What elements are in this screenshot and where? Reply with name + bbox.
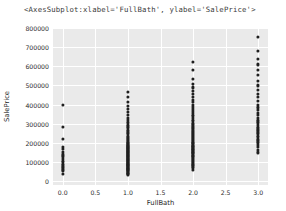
notebook-output-cell: <AxesSubplot:xlabel='FullBath', ylabel='… (0, 0, 286, 211)
scatter-point (257, 96, 260, 99)
scatter-point (191, 77, 194, 80)
axessubplot-repr-text: <AxesSubplot:xlabel='FullBath', ylabel='… (24, 5, 256, 14)
scatter-point (257, 92, 260, 95)
scatter-point (126, 107, 129, 110)
scatter-point (257, 49, 260, 52)
scatter-plot-axes (53, 28, 268, 185)
x-tick-label: 0.5 (90, 189, 100, 196)
x-axis-label: FullBath (53, 199, 268, 207)
scatter-point (126, 101, 129, 104)
scatter-point (191, 89, 194, 92)
x-tick-label: 1.5 (156, 189, 166, 196)
matplotlib-figure: 0100000200000300000400000500000600000700… (0, 18, 286, 211)
scatter-point (257, 100, 260, 103)
gridline-vertical (226, 28, 227, 185)
scatter-point (257, 84, 260, 87)
x-axis-tick-labels: 0.00.51.01.52.02.53.0 (53, 189, 268, 199)
scatter-point (126, 91, 129, 94)
x-tick-label: 1.0 (123, 189, 133, 196)
scatter-point (191, 60, 194, 63)
gridline-vertical (161, 28, 162, 185)
scatter-point (257, 73, 260, 76)
scatter-point (126, 96, 129, 99)
scatter-point (61, 103, 64, 106)
scatter-point (257, 151, 260, 154)
scatter-point (61, 137, 64, 140)
x-tick-label: 2.5 (221, 189, 231, 196)
scatter-point (257, 68, 260, 71)
scatter-point (191, 68, 194, 71)
scatter-point (257, 35, 260, 38)
scatter-point (61, 125, 64, 128)
y-axis-label: SalePrice (3, 28, 13, 185)
scatter-point (257, 89, 260, 92)
scatter-point (191, 86, 194, 89)
x-tick-label: 3.0 (253, 189, 263, 196)
x-tick-label: 2.0 (188, 189, 198, 196)
gridline-vertical (95, 28, 96, 185)
scatter-point (257, 57, 260, 60)
x-tick-label: 0.0 (58, 189, 68, 196)
scatter-point (257, 79, 260, 82)
